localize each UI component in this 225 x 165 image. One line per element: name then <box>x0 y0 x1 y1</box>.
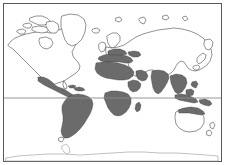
shaded-region-east-africa <box>128 80 141 92</box>
coastline-tierra-del-fuego <box>59 137 64 142</box>
shaded-region-caribbean <box>74 87 85 91</box>
world-distribution-map-figure: Equator <box>0 0 225 165</box>
shaded-region-south-america <box>61 94 93 138</box>
coastline-new-zealand <box>210 122 215 129</box>
shaded-region-borneo <box>186 89 194 96</box>
coastline-baffin-island <box>46 21 59 33</box>
shaded-region-south-asia <box>151 70 169 94</box>
shaded-region-cuba <box>68 85 76 88</box>
coastline-arctic-archipelago-4 <box>17 29 26 34</box>
landmass-outlines <box>6 14 218 161</box>
shaded-region-philippines <box>191 81 198 88</box>
shaded-region-new-guinea <box>199 99 212 106</box>
coastline-british-isles <box>99 42 106 52</box>
coastline-arctic-archipelago-3 <box>23 23 32 28</box>
shaded-region-southeast-asia <box>170 74 187 94</box>
coastline-scandinavia <box>107 33 120 48</box>
coastline-antarctic-peninsula <box>62 144 70 154</box>
shaded-region-southern-africa <box>104 91 131 116</box>
coastline-iceland <box>92 28 100 33</box>
coastline-new-zealand-south <box>207 130 212 136</box>
shaded-region-indonesia <box>175 94 198 103</box>
coastline-antarctica <box>6 152 218 161</box>
coastline-novaya-zemlya <box>139 17 146 24</box>
world-map-canvas <box>0 0 225 165</box>
coastline-arctic-island-1 <box>163 15 169 20</box>
coastline-svalbard <box>116 17 122 22</box>
coastline-arctic-island-2 <box>183 16 188 21</box>
coastline-florida <box>63 81 67 89</box>
shaded-region-madagascar <box>135 102 141 112</box>
coastline-kamchatka <box>204 39 213 50</box>
